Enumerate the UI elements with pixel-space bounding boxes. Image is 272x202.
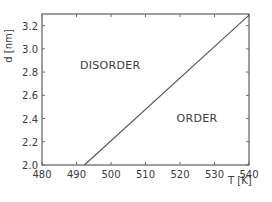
y-tick-label: 3.2 [22,21,38,32]
region-label: DISORDER [80,59,141,72]
plot-frame [42,14,249,165]
x-tick-label: 510 [136,169,155,180]
x-tick-label: 490 [67,169,86,180]
x-tick-label: 520 [170,169,189,180]
x-tick-label: 530 [205,169,224,180]
x-tick-label: 500 [101,169,120,180]
region-labels: DISORDERORDER [80,59,218,125]
y-tick-label: 2.0 [22,160,38,171]
y-tick-label: 2.2 [22,137,38,148]
y-tick-label: 3.0 [22,44,38,55]
y-axis-title: d [nm] [3,29,14,63]
x-axis-title: T [K] [227,175,252,186]
region-label: ORDER [177,112,218,125]
y-tick-label: 2.4 [22,114,38,125]
y-tick-label: 2.6 [22,90,38,101]
boundary-line [84,15,249,165]
y-tick-label: 2.8 [22,67,38,78]
phase-diagram-chart: 4804905005105205305402.02.22.42.62.83.03… [0,0,272,202]
